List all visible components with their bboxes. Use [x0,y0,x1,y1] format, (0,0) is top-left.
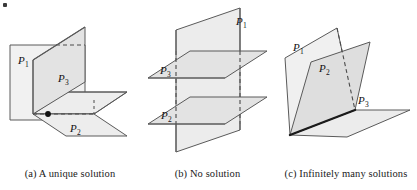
plane-p1-surface [176,8,240,152]
panel-c-infinitely-many-solutions: P 1 P 2 P 3 (c) Infinitely many solution… [275,0,417,190]
label-p2-subscript: 2 [168,115,172,124]
label-p1: P [17,54,25,66]
label-p3-subscript: 3 [167,70,171,79]
panel-a-diagram: P 1 P 3 P 2 [0,0,140,166]
panel-b-no-solution: P 1 P 3 P 2 (b) No solution [140,0,275,190]
label-p2: P [160,109,168,121]
label-p3-subscript: 3 [65,78,69,87]
three-planes-figure: P 1 P 3 P 2 (a) A unique solution [0,0,417,190]
label-p2-subscript: 2 [326,68,330,77]
label-p1: P [235,15,243,27]
label-p2-subscript: 2 [77,128,81,137]
label-p3-subscript: 3 [365,100,369,109]
panel-b-diagram: P 1 P 3 P 2 [140,0,275,166]
label-p1: P [292,41,300,53]
panel-b-caption: (b) No solution [140,168,275,179]
panel-c-diagram: P 1 P 2 P 3 [275,0,417,166]
label-p2: P [318,62,326,74]
label-p1-subscript: 1 [243,21,247,30]
label-p1-subscript: 1 [25,60,29,69]
label-p3: P [57,72,65,84]
panel-c-caption: (c) Infinitely many solutions [275,168,417,179]
panel-a-unique-solution: P 1 P 3 P 2 (a) A unique solution [0,0,140,190]
label-p3: P [357,94,365,106]
label-p2: P [69,122,77,134]
label-p3: P [159,64,167,76]
intersection-point [45,111,51,117]
panel-a-caption: (a) A unique solution [0,168,140,179]
label-p1-subscript: 1 [300,47,304,56]
